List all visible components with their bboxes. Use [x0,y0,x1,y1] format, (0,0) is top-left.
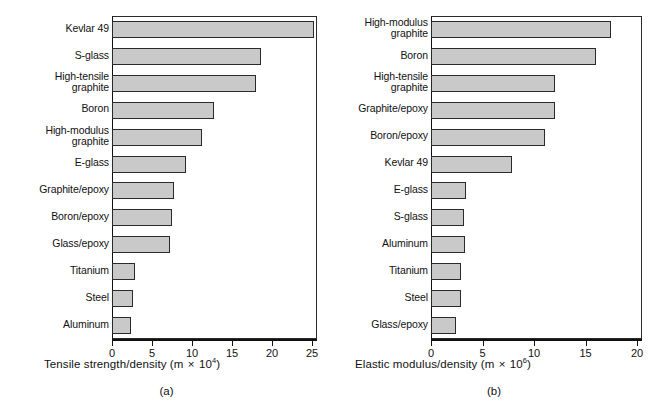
bar-rect [431,21,611,38]
bar [112,75,256,92]
x-axis-title-a: Tensile strength/density (m × 104) [44,358,220,370]
bar-rect [112,48,261,65]
bar-rect [431,317,456,334]
category-label: Graphite/epoxy [5,184,109,196]
x-axis-tick-label: 20 [631,347,643,359]
bar-rect [431,75,555,92]
bar [431,129,545,146]
bar-rect [431,182,466,199]
bar [112,48,261,65]
x-axis-tick [272,341,273,346]
bar-rect [112,209,172,226]
x-axis-tick-label: 15 [579,347,591,359]
x-axis-tick [152,341,153,346]
bar-rect [431,263,461,280]
x-axis-line [431,339,642,341]
bar-rect [112,102,214,119]
x-axis-tick [483,341,484,346]
bar-rect [112,290,133,307]
category-label: Boron/epoxy [5,211,109,223]
category-label: Steel [322,292,428,304]
category-label: High-tensile graphite [5,71,109,94]
bar [431,182,466,199]
plot-area-b: 05101520 High-modulus graphiteBoronHigh-… [333,0,667,413]
bar [431,290,461,307]
bar-rect [112,236,170,253]
panel-caption-a: (a) [0,385,333,397]
category-label: E-glass [5,157,109,169]
bar-rect [112,75,256,92]
category-label: High-modulus graphite [5,125,109,148]
x-axis-tick [637,341,638,346]
category-label: High-tensile graphite [322,71,428,94]
x-axis-tick-label: 25 [306,347,318,359]
bar [112,129,202,146]
bar-rect [112,317,131,334]
bar [431,102,555,119]
bar-rect [431,48,596,65]
bar-rect [431,290,461,307]
figure-bar-charts: 0510152025 Kevlar 49S-glassHigh-tensile … [0,0,667,413]
bar-rect [431,236,465,253]
bar [112,156,186,173]
bar [431,48,596,65]
bar [112,21,314,38]
x-axis-tick [112,341,113,346]
category-label: Graphite/epoxy [322,103,428,115]
panel-caption-b: (b) [327,385,661,397]
bar-rect [431,102,555,119]
category-label: Boron/epoxy [322,130,428,142]
bar-rect [431,129,545,146]
bar-rect [112,129,202,146]
category-label: Aluminum [5,319,109,331]
category-label: Aluminum [322,238,428,250]
x-axis-line [112,339,317,341]
bar [431,75,555,92]
category-label: Titanium [5,265,109,277]
bar [112,236,170,253]
category-label: Glass/epoxy [5,238,109,250]
bar-rect [431,156,512,173]
x-axis-tick [232,341,233,346]
bar-rect [431,209,464,226]
x-axis-tick [192,341,193,346]
x-axis-title-b: Elastic modulus/density (m × 106) [355,358,531,370]
category-label: Titanium [322,265,428,277]
category-label: Boron [322,50,428,62]
x-axis-tick [534,341,535,346]
x-axis-tick-label: 20 [266,347,278,359]
x-axis-tick [312,341,313,346]
category-label: S-glass [5,50,109,62]
category-label: Kevlar 49 [5,23,109,35]
category-label: Steel [5,292,109,304]
bar [431,209,464,226]
x-axis-tick-label: 15 [226,347,238,359]
category-label: Glass/epoxy [322,319,428,331]
bar-series-a [0,0,333,413]
bar [112,182,174,199]
category-label: Kevlar 49 [322,157,428,169]
bar-rect [112,263,135,280]
bar [112,102,214,119]
bar [112,263,135,280]
bar-series-b [333,0,667,413]
category-label: High-modulus graphite [322,17,428,40]
panel-a: 0510152025 Kevlar 49S-glassHigh-tensile … [0,0,333,413]
category-label: S-glass [322,211,428,223]
bar [431,317,456,334]
bar [431,21,611,38]
panel-b: 05101520 High-modulus graphiteBoronHigh-… [333,0,667,413]
x-axis-tick [586,341,587,346]
bar [112,317,131,334]
bar-rect [112,156,186,173]
bar [112,290,133,307]
bar [431,236,465,253]
category-label: Boron [5,103,109,115]
bar-rect [112,182,174,199]
plot-area-a: 0510152025 Kevlar 49S-glassHigh-tensile … [0,0,333,413]
x-axis-tick [431,341,432,346]
category-label: E-glass [322,184,428,196]
bar-rect [112,21,314,38]
bar [112,209,172,226]
bar [431,263,461,280]
